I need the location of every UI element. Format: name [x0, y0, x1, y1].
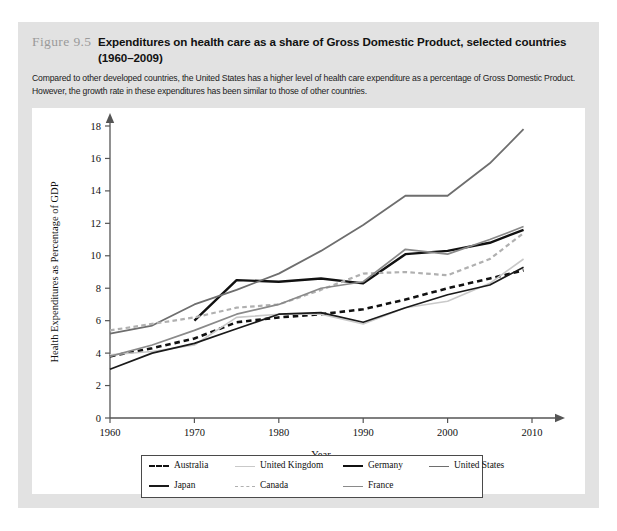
x-tick-label: 1990 — [353, 427, 374, 438]
figure-number: Figure 9.5 — [32, 34, 98, 50]
chart-legend: AustraliaUnited KingdomGermanyUnited Sta… — [141, 455, 483, 498]
legend-swatch-icon — [149, 465, 169, 467]
chart-panel: 024681012141618196019701980199020002010Y… — [32, 108, 585, 494]
x-axis-arrow — [555, 414, 565, 422]
legend-label: United States — [454, 461, 504, 470]
legend-label: Canada — [260, 481, 288, 490]
legend-swatch-icon — [235, 486, 255, 487]
y-tick-label: 0 — [96, 413, 101, 424]
legend-item: Japan — [149, 481, 235, 490]
y-tick-label: 16 — [91, 153, 102, 164]
legend-item: United States — [429, 461, 504, 470]
legend-item: Germany — [343, 461, 429, 470]
x-tick-label: 2000 — [437, 427, 458, 438]
figure-subtitle: Compared to other developed countries, t… — [32, 72, 588, 99]
x-tick-label: 1970 — [184, 427, 205, 438]
legend-item: Australia — [149, 461, 235, 470]
figure-title-line-1: Expenditures on health care as a share o… — [98, 34, 584, 50]
y-axis-title: Health Expenditures as Percentage of GDP — [49, 181, 60, 362]
series-line-united-states — [110, 129, 524, 333]
y-tick-label: 4 — [96, 348, 102, 359]
y-tick-label: 10 — [91, 250, 102, 261]
x-tick-label: 1980 — [268, 427, 289, 438]
y-tick-label: 8 — [96, 283, 101, 294]
legend-label: France — [368, 481, 394, 490]
legend-swatch-icon — [149, 485, 169, 487]
y-tick-label: 18 — [91, 121, 102, 132]
y-tick-label: 14 — [91, 185, 102, 196]
legend-swatch-icon — [343, 465, 363, 467]
figure-title-line-2: (1960–2009) — [98, 50, 584, 66]
line-chart: 024681012141618196019701980199020002010Y… — [32, 108, 585, 494]
y-axis-arrow — [106, 113, 114, 123]
legend-item: United Kingdom — [235, 461, 343, 470]
series-line-united-kingdom — [110, 259, 524, 355]
legend-item: Canada — [235, 481, 343, 490]
legend-label: Germany — [368, 461, 403, 470]
figure-header: Figure 9.5 Expenditures on health care a… — [32, 34, 588, 65]
legend-label: Australia — [174, 461, 208, 470]
x-tick-label: 1960 — [100, 427, 121, 438]
figure-page: Figure 9.5 Expenditures on health care a… — [0, 0, 617, 531]
legend-swatch-icon — [343, 486, 363, 487]
y-tick-label: 6 — [96, 315, 101, 326]
legend-item: France — [343, 481, 429, 490]
y-tick-label: 12 — [91, 218, 102, 229]
legend-label: Japan — [174, 481, 195, 490]
series-line-japan — [110, 267, 524, 369]
legend-swatch-icon — [429, 466, 449, 467]
legend-label: United Kingdom — [260, 461, 323, 470]
x-tick-label: 2010 — [522, 427, 543, 438]
legend-swatch-icon — [235, 466, 255, 467]
y-tick-label: 2 — [96, 380, 101, 391]
